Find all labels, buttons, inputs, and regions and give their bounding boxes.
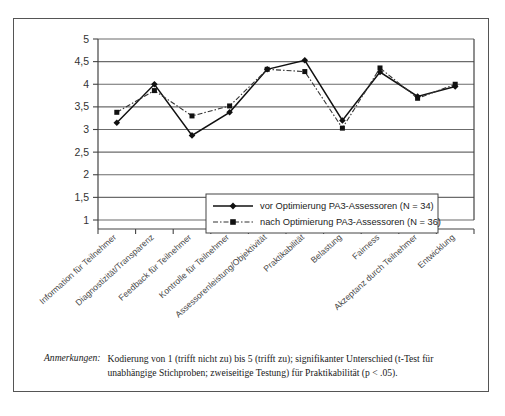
x-axis-category-labels: Information für TeilnehmerDiagnostizität… (37, 232, 456, 320)
data-point-square (190, 113, 195, 118)
legend-label-2: nach Optimierung PA3-Assessoren (N = 36) (260, 217, 441, 227)
legend-marker-square (230, 219, 236, 225)
y-tick-label: 2 (83, 168, 89, 180)
note-label: Anmerkungen: (44, 352, 100, 363)
y-tick-label: 1 (83, 214, 89, 226)
series-line-2 (117, 68, 455, 128)
y-axis-ticks (93, 39, 98, 220)
y-tick-label: 3 (83, 123, 89, 135)
chart-legend[interactable]: vor Optimierung PA3-Assessoren (N = 34)n… (206, 194, 441, 233)
figure-frame: 54,543,532,521,51 Information für Teilne… (13, 18, 489, 392)
x-category-label: Belastung (309, 232, 344, 265)
data-point-square (152, 88, 157, 93)
data-point-square (378, 65, 383, 70)
y-axis-labels: 54,543,532,521,51 (74, 33, 89, 226)
x-category-label: Entwicklung (416, 232, 457, 270)
data-point-square (302, 69, 307, 74)
data-point-square (265, 67, 270, 72)
data-point-square (415, 96, 420, 101)
data-point-diamond (302, 57, 309, 64)
x-category-label: Feedback für Teilnehmer (116, 232, 193, 303)
data-point-square (340, 126, 345, 131)
y-tick-label: 1,5 (74, 191, 89, 203)
x-category-label: Praktikabilität (261, 232, 306, 274)
data-point-square (227, 103, 232, 108)
data-series (114, 57, 459, 139)
figure-note: Anmerkungen: Kodierung von 1 (trifft nic… (44, 352, 464, 380)
x-category-label: Kontrolle für Teilnehmer (157, 232, 231, 300)
note-body: Kodierung von 1 (trifft nicht zu) bis 5 … (107, 352, 464, 380)
y-tick-label: 3,5 (74, 100, 89, 112)
y-tick-label: 2,5 (74, 146, 89, 158)
line-chart: 54,543,532,521,51 Information für Teilne… (14, 19, 490, 393)
y-tick-label: 4,5 (74, 55, 89, 67)
y-tick-label: 4 (83, 78, 89, 90)
series-line-1 (117, 60, 455, 135)
data-point-square (453, 82, 458, 87)
data-point-square (114, 110, 119, 115)
y-tick-label: 5 (83, 33, 89, 45)
gridlines (98, 39, 474, 220)
chart-canvas: 54,543,532,521,51 Information für Teilne… (14, 19, 490, 393)
legend-label-1: vor Optimierung PA3-Assessoren (N = 34) (260, 201, 434, 211)
x-category-label: Fairness (350, 232, 381, 261)
